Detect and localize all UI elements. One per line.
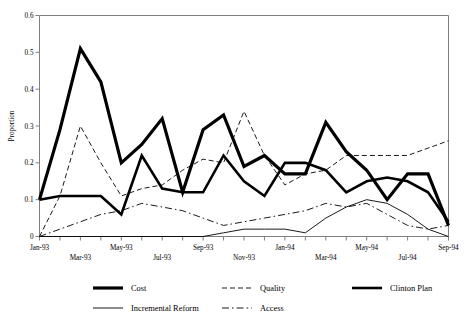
y-tick-label: 0.6 <box>25 12 34 20</box>
series-line-quality <box>40 111 449 236</box>
x-tick-group: Jan-93Mar-93May-93Jul-93Sep-93Nov-93Jan-… <box>30 237 459 262</box>
x-tick-label: May-94 <box>355 244 378 252</box>
chart-legend: CostQualityClinton PlanIncremental Refor… <box>93 284 433 313</box>
series-line-access <box>40 203 449 236</box>
x-tick-label: Sep-93 <box>193 244 214 252</box>
series-line-incremental-reform <box>40 200 449 237</box>
x-tick-label: May-93 <box>110 244 133 252</box>
y-tick-label: 0.3 <box>25 123 34 131</box>
x-tick-label: Nov-93 <box>233 254 255 262</box>
y-tick-label: 0.5 <box>25 49 34 57</box>
series-line-cost <box>40 49 449 226</box>
x-tick-label: Mar-93 <box>70 254 92 262</box>
y-tick-label: 0 <box>30 233 34 241</box>
y-tick-label: 0.1 <box>25 196 34 204</box>
x-tick-label: Jul-93 <box>153 254 171 262</box>
x-tick-label: Jan-93 <box>30 244 50 252</box>
chart-svg: 00.10.20.30.40.50.6 Jan-93Mar-93May-93Ju… <box>0 0 476 319</box>
series-group <box>40 49 449 237</box>
x-tick-label: Mar-94 <box>315 254 337 262</box>
legend-label-incremental-reform: Incremental Reform <box>131 304 199 313</box>
line-chart: 00.10.20.30.40.50.6 Jan-93Mar-93May-93Ju… <box>0 0 476 319</box>
y-tick-label: 0.4 <box>25 86 34 94</box>
y-tick-group: 00.10.20.30.40.50.6 <box>25 12 40 241</box>
legend-label-access: Access <box>260 304 284 313</box>
x-tick-label: Jul-94 <box>399 254 417 262</box>
legend-label-cost: Cost <box>131 284 147 293</box>
legend-label-quality: Quality <box>260 284 286 293</box>
x-tick-label: Sep-94 <box>438 244 459 252</box>
y-tick-label: 0.2 <box>25 159 34 167</box>
legend-label-clinton-plan: Clinton Plan <box>390 284 433 293</box>
y-axis-title: Proportion <box>8 110 16 141</box>
x-tick-label: Jan-94 <box>275 244 295 252</box>
